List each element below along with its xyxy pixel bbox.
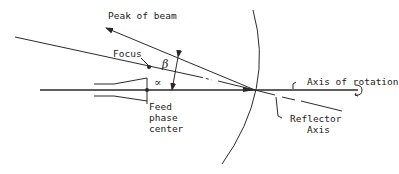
focus-label: Focus <box>113 48 142 59</box>
focus-point <box>147 65 151 69</box>
reflector-axis-line <box>255 90 275 95</box>
alpha-label: ∝ <box>154 76 161 89</box>
feed-label-3: center <box>149 123 183 134</box>
peak-of-beam-label: Peak of beam <box>108 10 177 21</box>
feed-label-1: Feed <box>149 101 172 112</box>
feed-phase-center-point <box>145 88 149 92</box>
reflector-label-2: Axis <box>307 124 330 135</box>
angle-arrow <box>172 57 178 90</box>
diagram-lines <box>0 0 399 174</box>
reflector-label-1: Reflector <box>290 113 341 124</box>
feed-to-vertex-line <box>15 37 200 77</box>
feed-label-2: phase <box>149 112 178 123</box>
beta-label: β <box>162 58 168 71</box>
axis-of-rotation-label: Axis of rotation <box>307 76 399 87</box>
diagram-canvas: Peak of beam Focus β ∝ Feed phase center… <box>0 0 399 174</box>
beam-peak-line <box>106 28 255 90</box>
feed-horn <box>94 78 147 104</box>
